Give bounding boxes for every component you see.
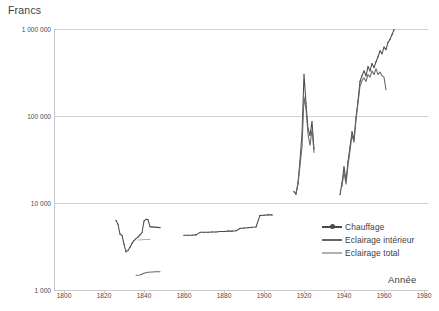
data-point bbox=[371, 63, 372, 64]
data-point bbox=[351, 131, 352, 132]
x-tick-mark bbox=[304, 290, 305, 293]
x-tick-mark bbox=[224, 290, 225, 293]
data-point bbox=[377, 56, 378, 57]
data-point bbox=[153, 226, 154, 227]
data-point bbox=[391, 34, 392, 35]
data-point bbox=[247, 227, 248, 228]
data-point bbox=[369, 70, 370, 71]
data-point bbox=[387, 42, 388, 43]
data-point bbox=[155, 227, 156, 228]
data-point bbox=[263, 215, 264, 216]
data-point bbox=[219, 231, 220, 232]
legend-label: Chauffage bbox=[345, 222, 384, 232]
series-layer bbox=[0, 0, 439, 311]
data-point bbox=[183, 235, 184, 236]
data-point bbox=[379, 50, 380, 51]
data-point bbox=[137, 237, 138, 238]
data-point bbox=[361, 75, 362, 76]
data-point bbox=[129, 247, 130, 248]
data-point bbox=[271, 214, 272, 215]
data-point bbox=[215, 231, 216, 232]
data-point bbox=[255, 226, 256, 227]
data-point bbox=[207, 232, 208, 233]
series-3 bbox=[138, 240, 150, 241]
data-point bbox=[187, 235, 188, 236]
data-point bbox=[309, 135, 310, 136]
data-point bbox=[159, 227, 160, 228]
data-point bbox=[149, 226, 150, 227]
series-line bbox=[296, 97, 314, 193]
data-point bbox=[151, 226, 152, 227]
x-tick-mark bbox=[184, 290, 185, 293]
data-point bbox=[117, 224, 118, 225]
series-line bbox=[340, 30, 394, 195]
data-point bbox=[145, 219, 146, 220]
data-point bbox=[385, 49, 386, 50]
legend-swatch-icon bbox=[322, 248, 342, 258]
data-point bbox=[367, 66, 368, 67]
data-point bbox=[363, 70, 364, 71]
legend-label: Eclairage total bbox=[345, 248, 400, 258]
data-point bbox=[365, 75, 366, 76]
data-point bbox=[311, 121, 312, 122]
data-point bbox=[259, 215, 260, 216]
data-point bbox=[147, 219, 148, 220]
data-point bbox=[389, 39, 390, 40]
data-point bbox=[119, 233, 120, 234]
data-point bbox=[243, 227, 244, 228]
x-tick-mark bbox=[64, 290, 65, 293]
data-point bbox=[191, 235, 192, 236]
legend-swatch-icon bbox=[322, 222, 342, 232]
data-point bbox=[293, 191, 294, 192]
data-point bbox=[127, 250, 128, 251]
data-point bbox=[211, 231, 212, 232]
series-line bbox=[138, 240, 150, 241]
data-point bbox=[375, 61, 376, 62]
data-point bbox=[157, 227, 158, 228]
x-tick-mark bbox=[384, 290, 385, 293]
data-point bbox=[121, 235, 122, 236]
data-point bbox=[125, 251, 126, 252]
data-point bbox=[223, 231, 224, 232]
data-point bbox=[251, 227, 252, 228]
data-point bbox=[203, 232, 204, 233]
data-point bbox=[359, 81, 360, 82]
data-point bbox=[339, 194, 340, 195]
data-point bbox=[135, 238, 136, 239]
data-point bbox=[295, 194, 296, 195]
data-point bbox=[239, 228, 240, 229]
series-line bbox=[342, 69, 386, 187]
data-point bbox=[381, 53, 382, 54]
x-tick-mark bbox=[144, 290, 145, 293]
x-tick-mark bbox=[344, 290, 345, 293]
data-point bbox=[133, 240, 134, 241]
data-point bbox=[267, 214, 268, 215]
legend-item[interactable]: Eclairage total bbox=[322, 246, 438, 259]
data-point bbox=[303, 74, 304, 75]
data-point bbox=[143, 220, 144, 221]
series-line bbox=[136, 272, 160, 275]
data-point bbox=[343, 166, 344, 167]
data-point bbox=[393, 29, 394, 30]
data-point bbox=[131, 243, 132, 244]
legend-swatch-icon bbox=[322, 235, 342, 245]
data-point bbox=[141, 232, 142, 233]
data-point bbox=[115, 220, 116, 221]
data-point bbox=[231, 231, 232, 232]
legend-item[interactable]: Eclairage intérieur bbox=[322, 233, 438, 246]
data-point bbox=[139, 234, 140, 235]
x-tick-mark bbox=[424, 290, 425, 293]
series-line bbox=[116, 219, 160, 252]
data-point bbox=[235, 230, 236, 231]
x-tick-mark bbox=[264, 290, 265, 293]
x-tick-mark bbox=[104, 290, 105, 293]
legend-label: Eclairage intérieur bbox=[345, 235, 414, 245]
data-point bbox=[383, 46, 384, 47]
data-point bbox=[199, 232, 200, 233]
legend-item[interactable]: Chauffage bbox=[322, 220, 438, 233]
chart-figure: Francs Année 1 000 000100 00010 0001 000… bbox=[0, 0, 439, 311]
legend: ChauffageEclairage intérieurEclairage to… bbox=[322, 220, 438, 259]
data-point bbox=[123, 244, 124, 245]
series-1 bbox=[115, 29, 394, 252]
data-point bbox=[373, 67, 374, 68]
